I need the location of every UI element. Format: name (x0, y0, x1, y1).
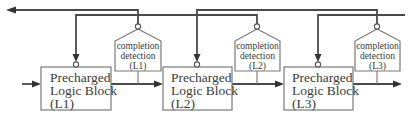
wire-cd-l3-to-l2-precharge (194, 10, 378, 62)
block-l3-line3: (L3) (292, 96, 316, 111)
wire-cd-l1-to-left-output (6, 7, 138, 27)
cd-l2-line1: completion (236, 41, 279, 51)
arrow-right-icon (154, 81, 163, 88)
precharge-bubble-icon (73, 62, 78, 67)
completion-detection-l1: completion detection (L1) (115, 24, 161, 72)
cd-l3-line3: (L3) (369, 61, 386, 72)
wire-l1-to-l2 (111, 81, 163, 88)
cd-l2-line3: (L2) (249, 61, 266, 72)
wire-input-to-l1 (22, 81, 41, 88)
pipeline-diagram: Precharged Logic Block (L1) completion d… (0, 0, 410, 118)
cd-l1-line2: detection (121, 51, 156, 61)
logic-block-l1: Precharged Logic Block (L1) (41, 62, 117, 111)
cd-l3-line2: detection (360, 51, 395, 61)
cd-l1-line1: completion (117, 41, 160, 51)
arrow-down-icon (194, 54, 201, 62)
arrow-down-icon (73, 54, 80, 62)
logic-block-l2: Precharged Logic Block (L2) (163, 62, 238, 111)
block-l2-line3: (L2) (171, 96, 195, 111)
logic-block-l3: Precharged Logic Block (L3) (284, 62, 359, 111)
completion-detection-l2: completion detection (L2) (235, 24, 280, 72)
cd-l1-line3: (L1) (130, 61, 147, 72)
arrow-down-icon (315, 54, 322, 62)
arrow-right-icon (32, 81, 41, 88)
completion-bubble-icon (135, 24, 140, 29)
wire-l2-to-l3 (232, 81, 284, 88)
arrow-left-icon (6, 7, 16, 14)
wire-cd-l2-to-l1-precharge (73, 15, 258, 62)
precharge-bubble-icon (315, 62, 320, 67)
completion-bubble-icon (374, 24, 379, 29)
cd-l2-line2: detection (240, 51, 275, 61)
block-l1-line3: (L1) (50, 96, 74, 111)
arrow-right-icon (275, 81, 284, 88)
precharge-bubble-icon (194, 62, 199, 67)
completion-detection-l3: completion detection (L3) (355, 24, 400, 72)
completion-bubble-icon (254, 24, 259, 29)
arrow-right-icon (393, 81, 402, 88)
cd-l3-line1: completion (356, 41, 399, 51)
